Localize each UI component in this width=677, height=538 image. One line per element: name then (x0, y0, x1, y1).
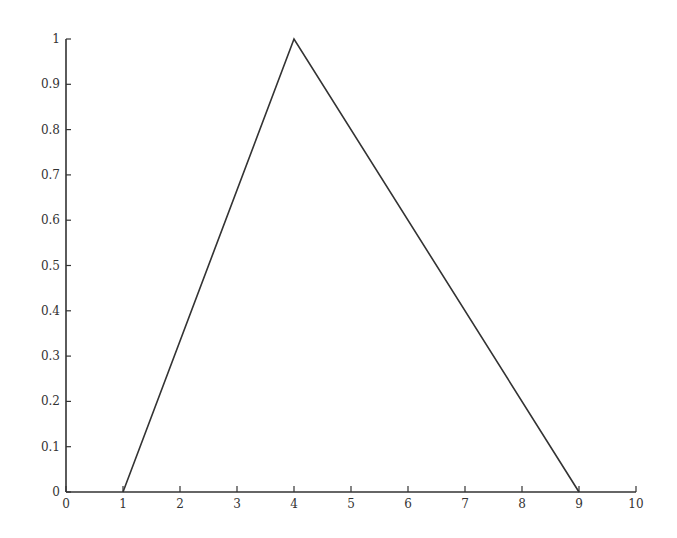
x-tick-label: 2 (176, 497, 184, 511)
x-tick-label: 9 (575, 497, 583, 511)
x-tick-label: 0 (62, 497, 70, 511)
y-tick-label: 0.7 (41, 168, 60, 182)
y-tick-label: 0.6 (41, 213, 60, 227)
y-tick-label: 0.3 (41, 349, 60, 363)
x-tick-label: 10 (628, 497, 643, 511)
y-tick-label: 0.1 (41, 440, 60, 454)
x-tick-label: 4 (290, 497, 298, 511)
x-tick-label: 5 (347, 497, 355, 511)
x-tick-label: 8 (518, 497, 526, 511)
y-tick-label: 0.4 (41, 304, 60, 318)
y-tick-label: 0.2 (41, 394, 60, 408)
triangle-chart: 012345678910 00.10.20.30.40.50.60.70.80.… (0, 0, 677, 538)
y-tick-label: 0 (52, 485, 60, 499)
x-tick-label: 6 (404, 497, 412, 511)
y-tick-label: 0.5 (41, 259, 60, 273)
x-tick-label: 3 (233, 497, 241, 511)
x-tick-label: 7 (461, 497, 469, 511)
x-axis-ticks: 012345678910 (62, 486, 643, 511)
y-tick-label: 0.8 (41, 123, 60, 137)
axes (66, 39, 636, 492)
y-tick-label: 0.9 (41, 77, 60, 91)
x-tick-label: 1 (119, 497, 127, 511)
data-line (123, 39, 579, 492)
y-tick-label: 1 (52, 32, 60, 46)
